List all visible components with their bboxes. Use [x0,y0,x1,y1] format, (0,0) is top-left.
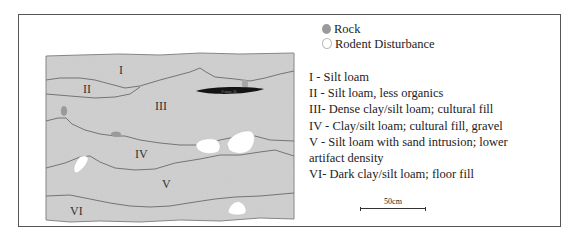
layer-label-i: I [119,63,123,77]
layer-label-iii: III [155,99,167,113]
layer-label-vi: VI [70,204,83,218]
layer-desc-v-cont: artifact density [309,150,508,166]
layer-descriptions: I - Silt loam II - Silt loam, less organ… [309,69,508,182]
rock-icon [322,24,331,34]
layer-desc-vi: VI- Dark clay/silt loam; floor fill [309,166,508,182]
legend-rodent-label: Rodent Disturbance [335,37,435,51]
layer-label-iv: IV [135,147,148,161]
scale-line [360,207,426,211]
rock-icon [61,106,67,116]
rock-icon [111,131,121,136]
layer-desc-ii: II - Silt loam, less organics [309,85,508,101]
rodent-burrow-icon [196,139,220,154]
legend-rodent: Rodent Disturbance [322,37,435,52]
scale-bar: 50cm [360,197,426,211]
layer-desc-v: V - Silt loam with sand intrusion; lower [309,134,508,150]
layer-desc-iv: IV - Clay/silt loam; cultural fill, grav… [309,118,508,134]
layer-label-v: V [162,177,171,191]
scale-label: 50cm [360,197,426,206]
layer-label-ii: II [83,82,91,96]
legend-rock-label: Rock [334,22,360,36]
layer-desc-iii: III- Dense clay/silt loam; cultural fill [309,101,508,117]
rodent-disturbance-icon [322,38,332,49]
feature-label: Feature 36 [222,90,237,94]
layer-desc-i: I - Silt loam [309,69,508,85]
legend-rock: Rock [322,22,360,37]
